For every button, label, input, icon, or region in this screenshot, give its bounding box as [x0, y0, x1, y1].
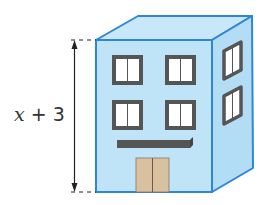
front-window [114, 57, 141, 83]
front-window [167, 57, 194, 83]
height-arrow-icon [72, 40, 78, 192]
height-label: x + 3 [14, 103, 65, 125]
front-window [114, 102, 141, 128]
building-diagram: x + 3 [0, 0, 269, 205]
front-window [167, 102, 194, 128]
height-label-variable: x [14, 103, 25, 125]
height-label-rest: + 3 [25, 103, 65, 125]
door [136, 158, 169, 192]
